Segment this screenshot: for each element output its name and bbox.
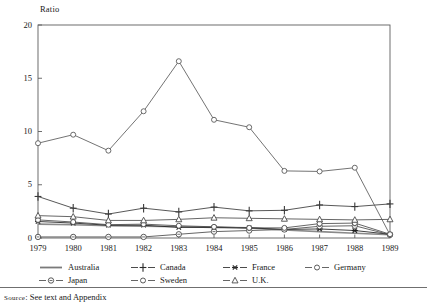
- plus-marker-icon: [130, 262, 156, 273]
- source-note: Source: See text and Appendix: [4, 292, 106, 302]
- marker-circle: [247, 225, 252, 230]
- marker-triangle: [232, 277, 238, 283]
- x-tick-label: 1989: [373, 243, 407, 253]
- marker-circle: [315, 265, 320, 270]
- marker-circle: [106, 148, 111, 153]
- marker-circle: [141, 278, 146, 283]
- circle-marker-icon: [304, 262, 330, 273]
- x-tick-label: 1986: [267, 243, 301, 253]
- legend-label: U.K.: [252, 275, 269, 286]
- marker-circle: [388, 232, 393, 237]
- legend-label: Germany: [334, 262, 366, 273]
- x-tick-label: 1982: [127, 243, 161, 253]
- triangle-marker-icon: [222, 275, 248, 286]
- legend-item-germany[interactable]: Germany: [304, 262, 366, 273]
- marker-circle: [176, 223, 181, 228]
- y-tick-label: 0: [8, 233, 32, 243]
- series-uk: [35, 212, 393, 222]
- marker-circle: [141, 109, 146, 114]
- legend-item-sweden[interactable]: Sweden: [130, 275, 187, 286]
- y-tick-label: 15: [8, 73, 32, 83]
- y-tick-label: 5: [8, 179, 32, 189]
- legend-item-japan[interactable]: Japan: [38, 275, 87, 286]
- circle-marker-icon: [130, 275, 156, 286]
- legend-label: Canada: [160, 262, 186, 273]
- source-label: Source: [4, 294, 25, 302]
- chart-figure: Ratio 05101520 1979198019811982198319841…: [0, 0, 427, 307]
- marker-triangle: [387, 216, 393, 222]
- source-text: : See text and Appendix: [25, 292, 106, 302]
- legend-label: Sweden: [160, 275, 187, 286]
- x-tick-label: 1983: [162, 243, 196, 253]
- x-tick-label: 1985: [232, 243, 266, 253]
- marker-circle: [212, 117, 217, 122]
- marker-triangle: [211, 215, 217, 221]
- asterisk-marker-icon: [222, 262, 248, 273]
- plot-area: [0, 0, 427, 260]
- legend-item-uk[interactable]: U.K.: [222, 275, 269, 286]
- legend-item-canada[interactable]: Canada: [130, 262, 186, 273]
- marker-circle: [317, 169, 322, 174]
- legend-item-france[interactable]: France: [222, 262, 275, 273]
- x-tick-label: 1979: [21, 243, 55, 253]
- y-tick-label: 10: [8, 126, 32, 136]
- legend-label: Japan: [68, 275, 87, 286]
- marker-triangle: [35, 212, 41, 218]
- legend-label: France: [252, 262, 275, 273]
- x-tick-label: 1988: [338, 243, 372, 253]
- marker-circle: [212, 224, 217, 229]
- legend-label: Australia: [68, 262, 99, 273]
- x-tick-label: 1980: [56, 243, 90, 253]
- x-tick-label: 1981: [91, 243, 125, 253]
- marker-circle: [71, 220, 76, 225]
- marker-circle: [247, 125, 252, 130]
- circle-dot-marker-icon: [38, 275, 64, 286]
- chart-legend: AustraliaCanadaFranceGermanyJapanSwedenU…: [38, 262, 408, 288]
- x-tick-label: 1984: [197, 243, 231, 253]
- marker-circle: [352, 165, 357, 170]
- x-tick-label: 1987: [303, 243, 337, 253]
- marker-circle: [71, 132, 76, 137]
- marker-circle: [282, 168, 287, 173]
- divider-rule: [0, 287, 427, 288]
- marker-circle: [282, 225, 287, 230]
- marker-circle: [36, 141, 41, 146]
- legend-item-australia[interactable]: Australia: [38, 262, 99, 273]
- legend-row: AustraliaCanadaFranceGermany: [38, 262, 408, 275]
- none-marker-icon: [38, 262, 64, 273]
- y-tick-label: 20: [8, 20, 32, 30]
- marker-circle: [176, 59, 181, 64]
